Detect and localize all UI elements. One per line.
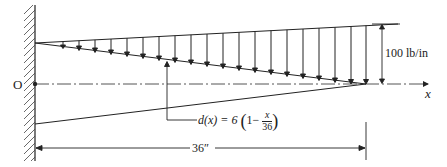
depth-fraction: x 36 xyxy=(262,110,272,132)
fraction-numerator: x xyxy=(262,110,272,122)
depth-function-label: d(x) = 6 (1− x 36 ) xyxy=(198,110,278,132)
depth-leader xyxy=(165,62,198,121)
distributed-load-arrows xyxy=(61,26,369,84)
beam-top-edge xyxy=(35,43,366,84)
depth-function-one-minus: 1− xyxy=(246,113,259,127)
fraction-denominator: 36 xyxy=(262,122,272,133)
origin-point xyxy=(33,82,37,86)
origin-label: O xyxy=(13,78,22,91)
load-intensity-label: 100 lb/in xyxy=(385,47,428,59)
x-axis-label: x xyxy=(425,87,431,100)
length-label: 36″ xyxy=(192,142,209,154)
beam-diagram xyxy=(0,0,447,167)
load-envelope-line xyxy=(35,24,398,43)
close-paren: ) xyxy=(272,111,278,131)
depth-function-lhs: d(x) = 6 xyxy=(198,113,237,127)
